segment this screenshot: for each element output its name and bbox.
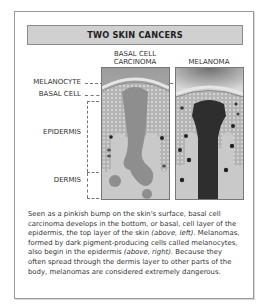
figure-title: TWO SKIN CANCERS xyxy=(27,25,243,45)
basal-cell-carcinoma-illustration xyxy=(101,67,170,200)
caption-ref-right: (above, right). xyxy=(124,248,173,256)
basal-cell-carcinoma-svg xyxy=(102,68,169,199)
label-melanocyte: MELANOCYTE xyxy=(11,78,81,86)
dermis-bracket xyxy=(87,173,88,198)
epidermis-bracket xyxy=(87,101,88,172)
label-basal-cell: BASAL CELL xyxy=(11,90,81,98)
caption-ref-left: (above, left). xyxy=(151,229,195,237)
label-epidermis: EPIDERMIS xyxy=(11,128,81,136)
label-dermis: DERMIS xyxy=(11,176,81,184)
column-label-basal-cell-carcinoma: BASAL CELL CARCINOMA xyxy=(101,50,169,66)
epidermis-bracket-top xyxy=(87,101,99,102)
melanoma-illustration xyxy=(175,67,244,200)
column-label-line2: CARCINOMA xyxy=(101,58,169,66)
figure-caption: Seen as a pinkish bump on the skin's sur… xyxy=(28,210,242,277)
dermis-bracket-bottom xyxy=(87,198,99,199)
melanoma-svg xyxy=(176,68,243,199)
column-label-melanoma: MELANOMA xyxy=(175,58,243,66)
column-label-line1: BASAL CELL xyxy=(101,50,169,58)
epidermis-bracket-bottom xyxy=(87,172,99,173)
